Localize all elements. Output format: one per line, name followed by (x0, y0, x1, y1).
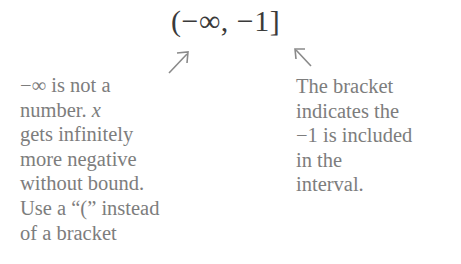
right-annotation-line: in the (296, 148, 412, 173)
left-annotation-line: of a bracket (20, 221, 159, 246)
right-annotation-line: The bracket (296, 74, 412, 99)
left-annotation-line: −∞ is not a (20, 73, 159, 98)
arrow-up-left-icon (292, 46, 316, 70)
left-annotation-line: more negative (20, 147, 159, 172)
right-annotation-line: interval. (296, 172, 412, 197)
interval-notation: (−∞, −1] (171, 4, 280, 38)
arrow-up-right-icon (166, 48, 192, 76)
left-annotation: −∞ is not a number. x gets infinitely mo… (20, 73, 159, 245)
right-annotation: The bracket indicates the −1 is included… (296, 74, 412, 197)
right-annotation-line: −1 is included (296, 123, 412, 148)
left-annotation-line: without bound. (20, 171, 159, 196)
left-annotation-line: gets infinitely (20, 122, 159, 147)
right-annotation-line: indicates the (296, 99, 412, 124)
left-annotation-line: Use a “(” instead (20, 196, 159, 221)
left-annotation-line: number. x (20, 98, 159, 123)
left-annotation-text: number. (20, 99, 92, 121)
variable-x: x (92, 99, 101, 121)
